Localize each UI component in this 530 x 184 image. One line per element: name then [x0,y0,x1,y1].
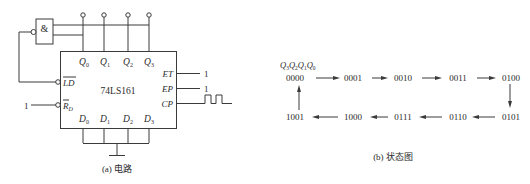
clock-pulse-icon [199,95,232,104]
state-1001: 1001 [286,112,304,122]
feedback-wire [19,32,56,82]
arrow-up [297,85,301,110]
rd-inverter-bubble [56,103,61,108]
state-1000: 1000 [344,112,363,122]
chip-name: 74LS161 [101,86,136,96]
q1-terminal [102,13,106,17]
label-q1: Q1 [100,57,110,68]
label-q2: Q2 [123,57,133,68]
state-0010: 0010 [394,73,413,83]
state-0110: 0110 [449,112,467,122]
rd-value: 1 [24,101,29,111]
and-gate-inverter-bubble [31,30,36,35]
ld-inverter-bubble [56,80,61,85]
q2-terminal [126,13,130,17]
state-diagram: Q3Q2Q1Q0 0000 0001 0010 0011 0100 1001 1… [280,60,521,162]
label-d2: D2 [122,114,133,125]
q3-terminal [147,13,151,17]
caption-state-diagram: (b) 状态图 [373,151,413,162]
label-ep: EP [161,84,173,94]
state-header: Q3Q2Q1Q0 [280,60,316,71]
q0-terminal [81,13,85,17]
figure-canvas: & 74LS161 Q0 Q1 Q2 Q3 LD 1 RD [0,0,530,184]
label-d0: D0 [78,114,89,125]
state-0100: 0100 [502,73,521,83]
state-0011: 0011 [449,73,467,83]
and-gate-label: & [41,23,49,34]
state-0111: 0111 [394,112,411,122]
label-d1: D1 [99,114,110,125]
label-et: ET [161,69,173,79]
label-d3: D3 [143,114,154,125]
state-0001: 0001 [344,73,362,83]
label-rd: RD [62,101,74,112]
arrow-down [508,84,512,108]
state-0101: 0101 [502,112,520,122]
circuit: & 74LS161 Q0 Q1 Q2 Q3 LD 1 RD [19,13,232,174]
caption-circuit: (a) 电路 [102,163,132,174]
label-q3: Q3 [144,57,154,68]
et-value: 1 [204,69,209,79]
label-ld: LD [62,78,75,88]
label-cp: CP [161,99,173,109]
label-q0: Q0 [79,57,89,68]
state-0000: 0000 [286,73,305,83]
ep-value: 1 [204,84,209,94]
